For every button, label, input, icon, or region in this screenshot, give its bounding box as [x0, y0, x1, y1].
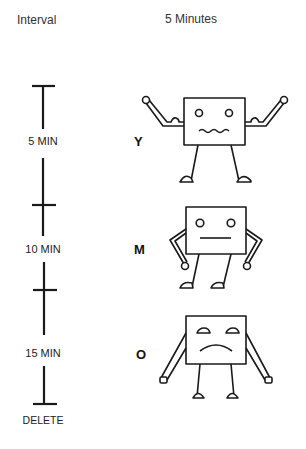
robot-right-foot: [237, 177, 251, 182]
robot-left-leg: [192, 254, 199, 287]
robot-left-leg: [197, 364, 200, 397]
tick-label-10-min: 10 MIN: [3, 243, 83, 255]
robot-right-leg: [231, 364, 234, 397]
robot-left-hand: [160, 377, 167, 383]
robot-left-arm: [170, 229, 187, 264]
timeline-diagram: [0, 0, 306, 449]
mood-letter-y: Y: [134, 134, 143, 149]
tick-label-5-min: 5 MIN: [3, 135, 83, 147]
robot-right-leg: [223, 254, 231, 287]
robot-left-leg: [191, 145, 198, 181]
robot-left-hand: [143, 97, 150, 104]
robot-left-foot: [193, 394, 204, 399]
robot-eye: [196, 219, 204, 227]
robot-head: [184, 98, 245, 145]
robot-eye: [226, 110, 233, 117]
robot-right-leg: [231, 145, 239, 181]
tick-label-15-min: 15 MIN: [3, 347, 83, 359]
robot-right-arm: [246, 333, 270, 380]
robot-right-hand: [265, 377, 272, 383]
robot-left-foot: [180, 176, 193, 182]
robot-head: [186, 207, 246, 254]
robot-left-arm: [161, 333, 186, 380]
robot-right-hand: [244, 263, 251, 270]
mood-letter-o: O: [136, 347, 146, 362]
robot-right-arm: [245, 100, 284, 126]
robot-head: [186, 316, 246, 364]
robot-eye: [196, 110, 203, 117]
robot-left-hand: [182, 263, 189, 270]
robot-eye: [227, 219, 235, 227]
robot-right-hand: [281, 97, 288, 104]
robot-happy: [143, 97, 288, 183]
robot-right-foot: [227, 394, 238, 399]
robot-sad: [160, 316, 272, 398]
delete-label: DELETE: [3, 414, 83, 426]
robot-right-arm: [245, 229, 262, 264]
mood-letter-m: M: [134, 242, 145, 257]
robot-neutral: [170, 207, 262, 288]
robot-left-foot: [180, 283, 193, 288]
robot-right-foot: [211, 283, 224, 288]
robot-left-arm: [146, 100, 184, 126]
